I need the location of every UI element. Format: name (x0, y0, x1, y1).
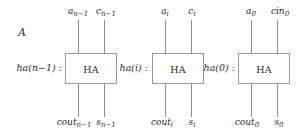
ha-cell-n-minus-1-label: ha(n−1) : (12, 62, 62, 73)
wire-in-cin-0 (277, 20, 278, 53)
input-c-i: ci (188, 6, 195, 16)
output-s-0-sub: 0 (279, 121, 283, 129)
input-c-n-minus-1-sub: n−1 (101, 10, 116, 18)
wire-out-cout-0 (251, 84, 252, 117)
output-cout-n-minus-1-sub: n−1 (77, 121, 92, 129)
output-s-n-minus-1: sn−1 (96, 117, 115, 127)
input-cin-0-base: cin (271, 6, 285, 16)
output-s-0: s0 (274, 117, 283, 127)
wire-out-s-0 (277, 84, 278, 117)
output-s-0-base: s (274, 117, 279, 127)
wire-out-cout-n-minus-1 (78, 84, 79, 117)
input-c-i-sub: i (193, 10, 195, 18)
figure-label: A (18, 26, 26, 39)
wire-out-cout-i (165, 84, 166, 117)
input-a-0: a0 (246, 6, 256, 16)
output-s-i: si (189, 117, 196, 127)
input-a-n-minus-1-sub: n−1 (73, 10, 88, 18)
output-cout-n-minus-1-base: cout (57, 117, 77, 127)
ha-cell-n-minus-1-box-text: HA (66, 63, 116, 74)
output-cout-0-base: cout (235, 117, 255, 127)
wire-in-a-n-minus-1 (78, 20, 79, 53)
ha-cell-0-box-text: HA (239, 63, 289, 74)
output-s-i-sub: i (193, 121, 195, 129)
ha-cell-0-label: ha(0) : (193, 62, 235, 73)
wire-out-s-i (191, 84, 192, 117)
input-a-i: ai (161, 6, 169, 16)
output-s-n-minus-1-base: s (96, 117, 101, 127)
output-cout-0: cout0 (235, 117, 259, 127)
ha-cell-0-box[interactable]: HA (238, 53, 290, 84)
wire-out-s-n-minus-1 (104, 84, 105, 117)
output-s-i-base: s (189, 117, 194, 127)
wire-in-c-i (191, 20, 192, 53)
output-cout-i-base: cout (151, 117, 171, 127)
output-cout-n-minus-1: coutn−1 (57, 117, 92, 127)
input-a-i-sub: i (167, 10, 169, 18)
half-adder-chain-diagram: A ha(n−1) : HA an−1 cn−1 coutn−1 sn−1 ha… (0, 0, 300, 137)
input-cin-0: cin0 (271, 6, 289, 16)
input-c-n-minus-1: cn−1 (96, 6, 116, 16)
wire-in-a-i (165, 20, 166, 53)
input-a-n-minus-1: an−1 (68, 6, 88, 16)
input-cin-0-sub: 0 (285, 10, 289, 18)
output-cout-i-sub: i (171, 121, 173, 129)
output-cout-i: couti (151, 117, 173, 127)
wire-in-a-0 (251, 20, 252, 53)
input-a-0-sub: 0 (251, 10, 255, 18)
output-s-n-minus-1-sub: n−1 (101, 121, 116, 129)
ha-cell-i-label: ha(i) : (110, 62, 148, 73)
wire-in-c-n-minus-1 (104, 20, 105, 53)
output-cout-0-sub: 0 (255, 121, 259, 129)
